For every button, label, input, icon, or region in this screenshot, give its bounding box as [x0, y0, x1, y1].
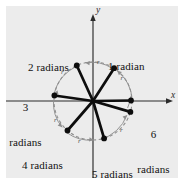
label-6-radians: 6 radians: [127, 106, 180, 186]
radian-circle-figure: r r r r r r: [0, 0, 184, 186]
label-4-radians: 4 radians: [22, 137, 63, 186]
point-marker-0: [128, 98, 134, 104]
point-marker-4-radians: [65, 128, 71, 134]
radius-label-r-2: r: [97, 58, 100, 66]
label-2-radians-line1: 2 radians: [28, 62, 69, 74]
point-marker-5-radians: [101, 136, 107, 142]
radius-label-r-5: r: [78, 137, 81, 145]
label-6-radians-line2: radians: [127, 164, 180, 176]
x-axis-label: x: [170, 90, 176, 100]
point-marker-2-radians: [74, 63, 80, 69]
label-6-radians-line1: 6: [127, 129, 180, 141]
label-4-radians-line1: 4 radians: [22, 160, 63, 172]
label-1-radian-line1: 1 radian: [108, 61, 145, 73]
radius-label-r-4: r: [54, 116, 57, 124]
radius-label-r-6: r: [120, 126, 123, 134]
ray-reference-0: [93, 101, 131, 102]
label-1-radian: 1 radian: [108, 38, 145, 96]
y-axis-label: y: [95, 5, 101, 15]
label-3-radians-line1: 3: [2, 102, 49, 114]
